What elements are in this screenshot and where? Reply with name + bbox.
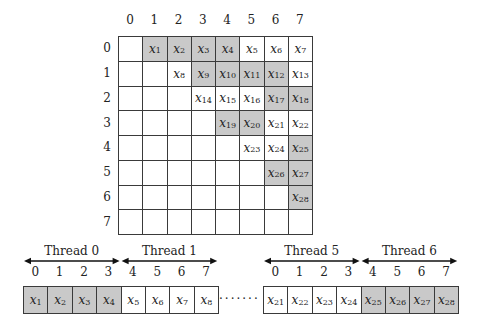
arrow-head [450, 258, 457, 264]
arrow-head [353, 258, 360, 264]
arrow-head [210, 258, 217, 264]
arrow-head [113, 258, 120, 264]
thread-arrows [0, 0, 482, 329]
arrow-head [122, 258, 129, 264]
arrow-head [264, 258, 271, 264]
arrow-head [24, 258, 31, 264]
arrow-head [362, 258, 369, 264]
